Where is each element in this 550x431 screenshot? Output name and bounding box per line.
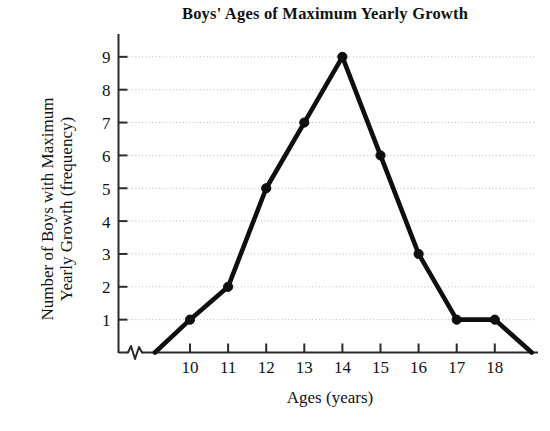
y-axis-tick-label: 6 bbox=[102, 147, 111, 166]
y-axis-tick-label: 4 bbox=[102, 213, 111, 232]
axis-break-icon bbox=[128, 346, 142, 359]
x-axis-tick-label: 17 bbox=[448, 358, 466, 377]
data-point-marker bbox=[185, 315, 194, 324]
x-axis-title: Ages (years) bbox=[120, 388, 540, 408]
y-axis-tick-label: 9 bbox=[102, 48, 111, 67]
y-axis-tick-labels: 123456789 bbox=[102, 48, 111, 330]
data-point-marker bbox=[224, 282, 233, 291]
data-point-marker bbox=[376, 151, 385, 160]
y-axis-tick-label: 7 bbox=[102, 114, 111, 133]
data-point-marker bbox=[338, 52, 347, 61]
data-point-marker bbox=[452, 315, 461, 324]
plot-area: 123456789 101112131415161718 bbox=[0, 0, 550, 431]
x-axis-tick-label: 10 bbox=[182, 358, 199, 377]
y-axis-ticks bbox=[119, 57, 128, 320]
gridlines bbox=[129, 57, 537, 320]
x-axis-tick-label: 14 bbox=[334, 358, 352, 377]
y-axis-tick-label: 8 bbox=[102, 81, 111, 100]
x-axis-tick-label: 18 bbox=[486, 358, 503, 377]
y-axis-tick-label: 3 bbox=[102, 245, 111, 264]
data-point-marker bbox=[414, 249, 423, 258]
x-axis-tick-label: 16 bbox=[410, 358, 427, 377]
x-axis-tick-label: 12 bbox=[258, 358, 275, 377]
y-axis-tick-label: 1 bbox=[102, 311, 111, 330]
x-axis-tick-label: 15 bbox=[372, 358, 389, 377]
data-line bbox=[155, 57, 532, 353]
y-axis-tick-label: 2 bbox=[102, 278, 111, 297]
x-axis-tick-label: 13 bbox=[296, 358, 313, 377]
x-axis-tick-label: 11 bbox=[220, 358, 236, 377]
data-point-marker bbox=[300, 118, 309, 127]
data-point-marker bbox=[490, 315, 499, 324]
x-axis-ticks bbox=[190, 344, 495, 353]
chart-figure: Boys' Ages of Maximum Yearly Growth Numb… bbox=[0, 0, 550, 431]
x-axis-tick-labels: 101112131415161718 bbox=[182, 358, 504, 377]
y-axis-tick-label: 5 bbox=[102, 180, 111, 199]
data-point-marker bbox=[262, 184, 271, 193]
